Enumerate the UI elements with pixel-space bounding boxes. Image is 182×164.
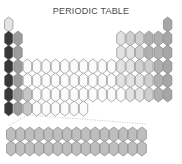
element-cell-actinides [25, 141, 34, 156]
element-cell-transition [33, 73, 41, 88]
element-cell-alkaline_earth [14, 101, 22, 116]
element-cell-p_light [117, 59, 125, 74]
element-cell-transition [51, 87, 59, 102]
element-cell-transition [107, 87, 115, 102]
element-cell-alkaline_earth [14, 59, 22, 74]
element-cell-transition [70, 101, 78, 116]
element-cell-lanthanides [63, 127, 72, 142]
element-cell-transition [70, 59, 78, 74]
element-cell-actinides [72, 141, 81, 156]
element-cell-lanthanides [81, 127, 90, 142]
element-cell-actinides [63, 141, 72, 156]
element-cell-p_light [117, 45, 125, 60]
element-cell-alkaline_earth [14, 73, 22, 88]
element-cell-transition [61, 73, 69, 88]
element-cell-lanthanides [137, 127, 146, 142]
element-cell-noble [163, 45, 171, 60]
element-cell-p_mid [126, 31, 134, 46]
element-cell-transition [61, 101, 69, 116]
element-cell-alkali [5, 31, 13, 46]
element-cell-p_light [126, 87, 134, 102]
element-cell-lanthanides [128, 127, 137, 142]
element-cell-lanthanides [119, 127, 128, 142]
element-cell-transition [79, 101, 87, 116]
element-cell-p_dark [154, 31, 162, 46]
element-cell-hydrogen [5, 17, 13, 32]
element-cell-p_mid [135, 59, 143, 74]
element-cell-p_dark [154, 87, 162, 102]
element-cell-alkaline_earth [14, 31, 22, 46]
element-cell-transition [23, 59, 31, 74]
element-cell-alkali [5, 45, 13, 60]
element-cell-transition [89, 59, 97, 74]
element-cell-transition [89, 73, 97, 88]
element-cell-p_light [126, 73, 134, 88]
element-cell-noble [163, 31, 171, 46]
element-cell-transition [98, 87, 106, 102]
element-cell-transition [51, 101, 59, 116]
element-cell-lanthanides [16, 127, 25, 142]
element-cell-lanthanides [91, 127, 100, 142]
element-cell-transition [33, 59, 41, 74]
f-block [7, 127, 147, 156]
element-cell-transition [98, 59, 106, 74]
element-cell-transition [70, 87, 78, 102]
element-cell-actinides [16, 141, 25, 156]
element-cell-actinides [119, 141, 128, 156]
element-cell-transition [79, 87, 87, 102]
element-cell-transition [33, 87, 41, 102]
element-cell-p_mid [135, 45, 143, 60]
element-cell-transition [42, 101, 50, 116]
element-cell-transition [23, 73, 31, 88]
element-cell-actinides [7, 141, 16, 156]
element-cell-transition [117, 87, 125, 102]
element-cell-transition [79, 73, 87, 88]
element-cell-p_mid [145, 87, 153, 102]
element-cell-alkali [5, 87, 13, 102]
main-block [5, 17, 172, 116]
element-cell-transition [98, 73, 106, 88]
element-cell-p_light [126, 45, 134, 60]
element-cell-alkali [5, 59, 13, 74]
element-cell-transition [61, 59, 69, 74]
element-cell-actinides [100, 141, 109, 156]
periodic-table-diagram [0, 0, 182, 164]
element-cell-p_dark [154, 73, 162, 88]
element-cell-actinides [128, 141, 137, 156]
element-cell-alkaline_earth [14, 45, 22, 60]
element-cell-p_light [126, 59, 134, 74]
element-cell-noble [163, 73, 171, 88]
element-cell-group3 [23, 101, 31, 116]
element-cell-actinides [91, 141, 100, 156]
element-cell-transition [89, 87, 97, 102]
element-cell-lanthanides [7, 127, 16, 142]
element-cell-transition [61, 87, 69, 102]
element-cell-lanthanides [100, 127, 109, 142]
element-cell-transition [107, 59, 115, 74]
element-cell-lanthanides [72, 127, 81, 142]
element-cell-lanthanides [44, 127, 53, 142]
element-cell-actinides [109, 141, 118, 156]
element-cell-alkali [5, 73, 13, 88]
element-cell-p_mid [145, 73, 153, 88]
dotted-connector [9, 115, 147, 126]
element-cell-noble [163, 59, 171, 74]
element-cell-p_dark [154, 59, 162, 74]
element-cell-group3 [23, 87, 31, 102]
element-cell-p_light [117, 31, 125, 46]
element-cell-transition [42, 59, 50, 74]
element-cell-alkaline_earth [14, 87, 22, 102]
element-cell-p_dark [145, 31, 153, 46]
element-cell-lanthanides [35, 127, 44, 142]
element-cell-transition [70, 73, 78, 88]
element-cell-transition [51, 59, 59, 74]
element-cell-alkali [5, 101, 13, 116]
element-cell-noble [163, 17, 171, 32]
element-cell-transition [33, 101, 41, 116]
element-cell-p_light [135, 73, 143, 88]
element-cell-transition [79, 59, 87, 74]
element-cell-noble [163, 87, 171, 102]
element-cell-p_mid [135, 31, 143, 46]
element-cell-transition [51, 73, 59, 88]
element-cell-p_dark [145, 45, 153, 60]
